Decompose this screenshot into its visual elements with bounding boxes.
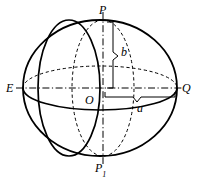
- brace-semi-minor-axis-b: [107, 22, 118, 88]
- label-west-point-E: E: [6, 82, 13, 94]
- label-north-pole-P: P: [99, 4, 106, 16]
- label-origin-O: O: [85, 94, 94, 106]
- ellipsoid-diagram-svg: [0, 0, 197, 180]
- label-south-pole-subscript: 1: [102, 170, 106, 179]
- label-semi-major-axis-a: a: [137, 102, 143, 114]
- figure-container: P P1 E Q O b a: [0, 0, 197, 180]
- label-south-pole-P1: P1: [95, 162, 106, 177]
- label-east-point-Q: Q: [182, 82, 191, 94]
- label-semi-minor-axis-b: b: [121, 46, 127, 58]
